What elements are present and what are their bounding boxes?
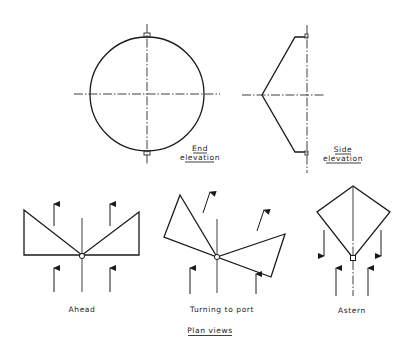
end-elevation-label-line1: End bbox=[192, 144, 208, 153]
ahead-left-vane bbox=[24, 210, 82, 255]
port-right-vane bbox=[217, 234, 285, 277]
propeller-diagram: End elevation Side elevation Ahead bbox=[0, 0, 409, 348]
plan-view-astern: Astern bbox=[317, 186, 390, 315]
plan-view-ahead: Ahead bbox=[24, 204, 139, 314]
end-elevation-label-line2: elevation bbox=[180, 153, 220, 162]
plan-views-caption: Plan views bbox=[187, 326, 233, 335]
angled-arrow-icon bbox=[257, 210, 264, 231]
plan-view-turning-to-port: Turning to port bbox=[164, 192, 285, 314]
port-pivot bbox=[214, 254, 219, 259]
side-elevation-label-line2: elevation bbox=[323, 154, 363, 163]
ahead-pivot bbox=[79, 253, 84, 258]
astern-vanes bbox=[317, 186, 390, 258]
astern-label: Astern bbox=[338, 306, 366, 315]
end-elevation: End elevation bbox=[74, 24, 220, 165]
side-elevation-profile bbox=[262, 37, 305, 152]
ahead-label: Ahead bbox=[69, 305, 96, 314]
side-top-lug bbox=[305, 34, 308, 38]
port-left-vane bbox=[164, 195, 217, 257]
side-elevation: Side elevation bbox=[242, 25, 363, 173]
angled-arrow-icon bbox=[203, 192, 210, 213]
turning-to-port-label: Turning to port bbox=[189, 305, 254, 314]
astern-pivot bbox=[351, 256, 356, 261]
side-bottom-lug bbox=[305, 151, 308, 155]
side-elevation-label-line1: Side bbox=[334, 145, 353, 154]
